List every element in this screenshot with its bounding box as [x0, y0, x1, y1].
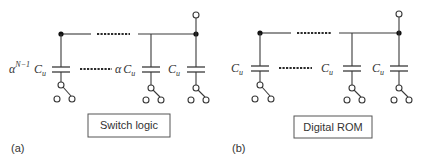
capacitor-branch-left — [251, 33, 274, 102]
capacitor-label-middle: αCu — [115, 62, 135, 78]
capacitor-array-diagram: αN−1Cu αCu Cu Switch logic — [0, 0, 422, 167]
switch-contact-1 — [252, 96, 258, 102]
switch-contact-1 — [391, 97, 397, 103]
switch-arm — [262, 87, 270, 96]
capacitor-branch-middle — [142, 34, 164, 103]
capacitor-branch-middle — [343, 33, 365, 103]
switch-contact-2 — [359, 97, 365, 103]
output-terminal — [396, 11, 402, 17]
panel-label-b: (b) — [232, 142, 245, 154]
panel-b: Cu Cu Cu Digital ROM ( — [231, 11, 412, 154]
switch-contact-1 — [54, 96, 60, 102]
switch-contact-2 — [268, 96, 274, 102]
capacitor-label-left: αN−1Cu — [9, 60, 46, 78]
switch-contact-2 — [158, 97, 164, 103]
switch-contact-2 — [203, 97, 209, 103]
capacitor-branch-right — [187, 34, 209, 103]
switch-contact-2 — [69, 96, 75, 102]
digital-rom-label: Digital ROM — [303, 121, 362, 133]
capacitor-label-right: Cu — [168, 62, 180, 78]
switch-contact-2 — [406, 97, 412, 103]
panel-a: αN−1Cu αCu Cu Switch logic — [9, 12, 209, 154]
capacitor-label-middle: Cu — [321, 61, 333, 77]
switch-contact-1 — [344, 97, 350, 103]
switch-arm — [354, 90, 361, 97]
switch-contact-1 — [188, 97, 194, 103]
capacitor-label-left: Cu — [231, 61, 243, 77]
capacitor-branch-left — [52, 34, 75, 102]
output-terminal — [193, 12, 199, 18]
switch-arm — [198, 90, 205, 97]
switch-contact-1 — [143, 97, 149, 103]
switch-logic-label: Switch logic — [100, 119, 159, 131]
capacitor-branch-right — [390, 33, 412, 103]
capacitor-label-right: Cu — [372, 61, 384, 77]
switch-arm — [401, 90, 408, 97]
switch-arm — [63, 87, 71, 96]
panel-label-a: (a) — [11, 142, 24, 154]
switch-arm — [153, 90, 160, 97]
